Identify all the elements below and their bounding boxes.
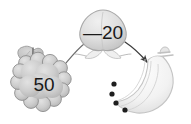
node-peach[interactable]: —20 [75, 10, 131, 59]
edge-peach-banana [125, 42, 147, 62]
peach-whisker-icon [75, 54, 131, 56]
banana-tip-4-icon [122, 107, 127, 112]
banana-tip-2-icon [109, 91, 114, 96]
edge-peach-banana-line [125, 42, 147, 62]
banana-tip-3-icon [113, 100, 118, 105]
banana-tip-1-icon [111, 81, 116, 86]
node-grapes[interactable]: 50 [11, 46, 72, 111]
diagram-canvas: 50 —20 [0, 0, 191, 124]
diagram-svg: 50 —20 [0, 0, 191, 124]
banana-bunch-icon [115, 56, 173, 113]
peach-value-label: —20 [83, 22, 123, 43]
grapes-value-label: 50 [33, 74, 54, 95]
